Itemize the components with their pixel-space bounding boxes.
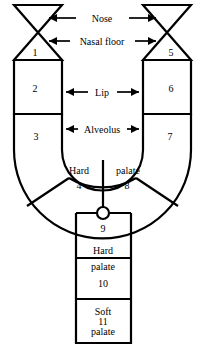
inline-text-soft-column: Soft xyxy=(95,306,112,317)
region-number-2: 2 xyxy=(33,83,38,94)
right-lip-block-outline xyxy=(143,60,191,114)
left-nose-bowtie xyxy=(14,5,62,60)
cleft-palate-diagram: Nose Nasal floor Lip Alveolus 1 2 3 4 5 … xyxy=(0,0,205,347)
annotation-label-nasal-floor: Nasal floor xyxy=(80,36,125,47)
arrow-nasal-floor-right xyxy=(135,37,156,45)
annotation-label-lip: Lip xyxy=(95,87,109,98)
divider-left-radial xyxy=(27,178,69,206)
region-number-10: 10 xyxy=(98,278,108,289)
inline-text-hard-left: Hard xyxy=(69,165,89,176)
arrow-alveolus-left xyxy=(66,125,78,133)
diagram-canvas xyxy=(0,0,205,347)
region-number-5: 5 xyxy=(169,47,174,58)
divider-right-radial xyxy=(136,178,178,206)
inline-text-palate-soft: palate xyxy=(91,326,115,337)
arrow-lip-left xyxy=(66,88,88,96)
inline-text-palate-right: palate xyxy=(116,165,140,176)
annotation-label-nose: Nose xyxy=(92,13,113,24)
region-number-4: 4 xyxy=(77,180,82,191)
arrow-lip-right xyxy=(117,88,139,96)
inline-text-hard-column: Hard xyxy=(93,245,113,256)
inline-text-palate-column: palate xyxy=(91,261,115,272)
left-lip-block-outline xyxy=(14,60,62,114)
arrow-nasal-floor-left xyxy=(49,37,70,45)
region-number-3: 3 xyxy=(34,131,39,142)
arrow-alveolus-right xyxy=(127,125,139,133)
region-number-8: 8 xyxy=(125,180,130,191)
region-number-7: 7 xyxy=(168,131,173,142)
incisive-foramen-circle xyxy=(97,207,109,219)
region-number-6: 6 xyxy=(169,83,174,94)
region-number-9: 9 xyxy=(101,223,106,234)
right-nose-bowtie xyxy=(143,5,191,60)
region-number-1: 1 xyxy=(33,47,38,58)
annotation-label-alveolus: Alveolus xyxy=(84,124,120,135)
